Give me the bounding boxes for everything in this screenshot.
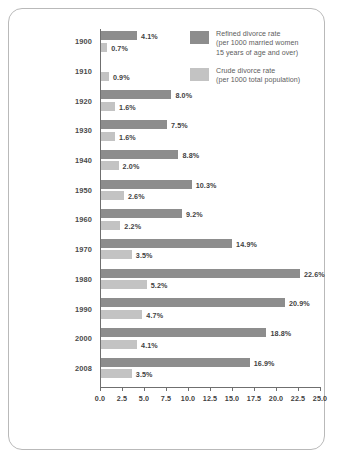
bar-refined-divorce-rate	[101, 209, 182, 218]
bar-crude-divorce-rate	[101, 161, 119, 170]
bar-value-label: 3.5%	[136, 370, 153, 379]
x-axis-tick	[232, 387, 233, 391]
year-label: 1980	[56, 275, 92, 284]
x-axis-tick	[254, 387, 255, 391]
bar-value-label: 8.0%	[175, 91, 192, 100]
bar-value-label: 0.9%	[113, 73, 130, 82]
bar-value-label: 2.0%	[123, 162, 140, 171]
year-label: 1950	[56, 186, 92, 195]
x-axis-tick	[188, 387, 189, 391]
bar-refined-divorce-rate	[101, 150, 178, 159]
bar-refined-divorce-rate	[101, 90, 171, 99]
year-label: 1910	[56, 67, 92, 76]
year-label: 1930	[56, 126, 92, 135]
bar-crude-divorce-rate	[101, 250, 132, 259]
year-label: 1970	[56, 245, 92, 254]
bar-refined-divorce-rate	[101, 358, 250, 367]
year-label: 1900	[56, 37, 92, 46]
x-axis-tick	[100, 387, 101, 391]
year-label: 1920	[56, 97, 92, 106]
divorce-rate-bar-chart: Refined divorce rate (per 1000 married w…	[0, 0, 337, 467]
bar-value-label: 1.6%	[119, 133, 136, 142]
x-axis-tick-label: 25.0	[305, 394, 335, 403]
bar-refined-divorce-rate	[101, 298, 285, 307]
bar-value-label: 22.6%	[304, 270, 325, 279]
bar-crude-divorce-rate	[101, 72, 109, 81]
bar-value-label: 2.6%	[128, 192, 145, 201]
legend-swatch-refined	[190, 31, 209, 44]
bar-refined-divorce-rate	[101, 180, 192, 189]
bar-value-label: 0.7%	[111, 44, 128, 53]
bar-value-label: 4.7%	[146, 311, 163, 320]
bar-value-label: 16.9%	[254, 359, 275, 368]
year-label: 1940	[56, 156, 92, 165]
bar-value-label: 18.8%	[270, 329, 291, 338]
legend-subtitle-refined-line2: 15 years of age and over)	[216, 49, 298, 58]
x-axis-tick	[210, 387, 211, 391]
bar-value-label: 14.9%	[236, 240, 257, 249]
bar-crude-divorce-rate	[101, 221, 120, 230]
x-axis-tick	[276, 387, 277, 391]
legend-subtitle-crude-line1: (per 1000 total population)	[216, 76, 300, 85]
bar-value-label: 8.8%	[182, 151, 199, 160]
x-axis-tick	[122, 387, 123, 391]
bar-refined-divorce-rate	[101, 269, 300, 278]
bar-crude-divorce-rate	[101, 191, 124, 200]
year-label: 2000	[56, 334, 92, 343]
bar-refined-divorce-rate	[101, 328, 266, 337]
bar-value-label: 9.2%	[186, 210, 203, 219]
bar-value-label: 7.5%	[171, 121, 188, 130]
legend-subtitle-refined-line1: (per 1000 married women	[216, 39, 298, 48]
bar-value-label: 2.2%	[124, 222, 141, 231]
bar-crude-divorce-rate	[101, 43, 107, 52]
legend-swatch-crude	[190, 68, 209, 81]
bar-refined-divorce-rate	[101, 120, 167, 129]
bar-value-label: 3.5%	[136, 251, 153, 260]
bar-crude-divorce-rate	[101, 310, 142, 319]
bar-crude-divorce-rate	[101, 102, 115, 111]
legend-item-crude-divorce-rate: Crude divorce rate (per 1000 total popul…	[190, 67, 320, 86]
chart-legend: Refined divorce rate (per 1000 married w…	[190, 30, 320, 94]
year-label: 1990	[56, 305, 92, 314]
bar-value-label: 4.1%	[141, 341, 158, 350]
bar-value-label: 20.9%	[289, 299, 310, 308]
legend-label-refined: Refined divorce rate (per 1000 married w…	[216, 30, 298, 58]
legend-label-crude: Crude divorce rate (per 1000 total popul…	[216, 67, 300, 86]
bar-value-label: 4.1%	[141, 32, 158, 41]
bar-value-label: 10.3%	[196, 181, 217, 190]
year-label: 2008	[56, 364, 92, 373]
bar-value-label: 5.2%	[151, 281, 168, 290]
x-axis-tick	[298, 387, 299, 391]
bar-crude-divorce-rate	[101, 132, 115, 141]
legend-item-refined-divorce-rate: Refined divorce rate (per 1000 married w…	[190, 30, 320, 58]
bar-crude-divorce-rate	[101, 280, 147, 289]
legend-title-crude: Crude divorce rate	[216, 67, 300, 76]
x-axis-tick	[320, 387, 321, 391]
year-label: 1960	[56, 215, 92, 224]
bar-crude-divorce-rate	[101, 340, 137, 349]
bar-value-label: 1.6%	[119, 103, 136, 112]
legend-title-refined: Refined divorce rate	[216, 30, 298, 39]
bar-refined-divorce-rate	[101, 239, 232, 248]
x-axis-tick	[166, 387, 167, 391]
x-axis-tick	[144, 387, 145, 391]
bar-crude-divorce-rate	[101, 369, 132, 378]
bar-refined-divorce-rate	[101, 31, 137, 40]
